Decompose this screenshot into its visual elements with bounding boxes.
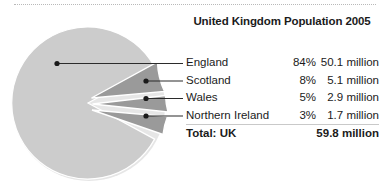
legend-percent-wales: 5% <box>290 89 316 107</box>
legend-label-scotland: Scotland <box>186 72 290 90</box>
legend-value-scotland: 5.1 million <box>316 72 379 90</box>
legend-label-northern-ireland: Northern Ireland <box>186 107 290 125</box>
legend-label-total: Total: UK <box>186 125 290 143</box>
legend-percent-scotland: 8% <box>290 72 316 90</box>
legend-row-wales: Wales 5% 2.9 million <box>186 89 379 107</box>
leader-dot-wales <box>143 96 148 101</box>
legend-label-wales: Wales <box>186 89 290 107</box>
pie-chart-figure: United Kingdom Population 2005 England 8… <box>0 0 382 185</box>
legend-label-england: England <box>186 54 290 72</box>
legend-row-northern-ireland: Northern Ireland 3% 1.7 million <box>186 107 379 125</box>
legend-row-england: England 84% 50.1 million <box>186 54 379 72</box>
legend-value-wales: 2.9 million <box>316 89 379 107</box>
legend-value-total: 59.8 million <box>316 125 379 143</box>
legend-percent-northern-ireland: 3% <box>290 107 316 125</box>
leader-dot-england <box>54 61 59 66</box>
legend-percent-total <box>290 125 316 143</box>
legend-percent-england: 84% <box>290 54 316 72</box>
legend-value-england: 50.1 million <box>316 54 379 72</box>
chart-title: United Kingdom Population 2005 <box>186 15 378 27</box>
legend-row-total: Total: UK 59.8 million <box>186 125 379 143</box>
leader-dot-scotland <box>143 78 148 83</box>
legend-row-scotland: Scotland 8% 5.1 million <box>186 72 379 90</box>
leader-dot-northern-ireland <box>143 113 148 118</box>
legend-table: England 84% 50.1 million Scotland 8% 5.1… <box>186 54 379 143</box>
legend-value-northern-ireland: 1.7 million <box>316 107 379 125</box>
